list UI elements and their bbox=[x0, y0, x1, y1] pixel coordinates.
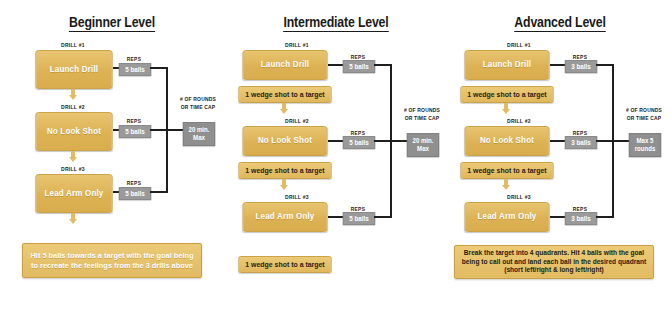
drill-label-i1: DRILL #1 bbox=[266, 42, 329, 48]
reps-chip-b2: 5 balls bbox=[119, 125, 151, 138]
drill-box-a1[interactable]: Launch Drill bbox=[465, 50, 550, 80]
drill-box-b3[interactable]: Lead Arm Only bbox=[35, 174, 112, 213]
cap-chip-beginner: 20 min. Max bbox=[183, 122, 215, 146]
column-title-beginner: Beginner Level bbox=[13, 14, 210, 32]
connector-i1-left bbox=[328, 64, 344, 66]
connector-i3-left bbox=[328, 216, 344, 218]
column-beginner: Beginner Level DRILL #1 Launch Drill DRI… bbox=[0, 0, 224, 309]
column-title-text: Advanced Level bbox=[514, 14, 605, 32]
wedge-box-i1[interactable]: 1 wedge shot to a target bbox=[238, 86, 331, 103]
reps-chip-a3: 3 balls bbox=[565, 212, 597, 225]
arrow-down-i2 bbox=[279, 179, 288, 190]
drill-label-a2: DRILL #2 bbox=[488, 118, 551, 124]
reps-label-b2: REPS bbox=[120, 118, 149, 124]
reps-chip-i1: 5 balls bbox=[343, 60, 375, 73]
cap-chip-intermediate: 20 min. Max bbox=[407, 133, 439, 157]
column-title-text: Intermediate Level bbox=[283, 14, 388, 32]
drill-label-b2: DRILL #2 bbox=[42, 104, 105, 110]
drill-box-b1[interactable]: Launch Drill bbox=[35, 50, 112, 89]
reps-chip-i3: 5 balls bbox=[343, 212, 375, 225]
reps-chip-b1: 5 balls bbox=[119, 63, 151, 76]
wedge-box-a1[interactable]: 1 wedge shot to a target bbox=[460, 86, 553, 103]
arrow-down-a2 bbox=[501, 179, 510, 190]
wedge-box-a2[interactable]: 1 wedge shot to a target bbox=[460, 162, 553, 179]
drill-label-i3: DRILL #3 bbox=[266, 194, 329, 200]
connector-a2-left bbox=[550, 140, 566, 142]
connector-a3-left bbox=[550, 216, 566, 218]
arrow-down-i1 bbox=[279, 103, 288, 114]
drill-label-a3: DRILL #3 bbox=[488, 194, 551, 200]
column-title-intermediate: Intermediate Level bbox=[237, 14, 434, 32]
drill-label-i2: DRILL #2 bbox=[266, 118, 329, 124]
wedge-box-i3[interactable]: 1 wedge shot to a target bbox=[238, 256, 331, 273]
cap-label-beginner: # OF ROUNDS OR TIME CAP bbox=[177, 96, 219, 112]
connector-i2-left bbox=[328, 140, 344, 142]
arrow-down-b1 bbox=[68, 89, 77, 100]
column-title-text: Beginner Level bbox=[69, 14, 155, 32]
drill-box-i3[interactable]: Lead Arm Only bbox=[243, 202, 328, 232]
summary-box-beginner: Hit 5 balls towards a target with the go… bbox=[22, 243, 202, 278]
column-title-advanced: Advanced Level bbox=[461, 14, 658, 32]
drill-box-i1[interactable]: Launch Drill bbox=[243, 50, 328, 80]
drill-box-i2[interactable]: No Look Shot bbox=[243, 126, 328, 156]
column-intermediate: Intermediate Level DRILL #1 Launch Drill… bbox=[224, 0, 448, 309]
wedge-box-i2[interactable]: 1 wedge shot to a target bbox=[238, 162, 331, 179]
arrow-down-a1 bbox=[501, 103, 510, 114]
bracket-vertical-advanced bbox=[612, 64, 614, 218]
drill-label-a1: DRILL #1 bbox=[488, 42, 551, 48]
bracket-vertical-intermediate bbox=[390, 64, 392, 218]
reps-chip-a2: 3 balls bbox=[565, 136, 597, 149]
arrow-down-b3 bbox=[68, 213, 77, 224]
drill-label-b3: DRILL #3 bbox=[42, 166, 105, 172]
cap-label-intermediate: # OF ROUNDS OR TIME CAP bbox=[401, 107, 443, 123]
cap-label-advanced: # OF ROUNDS OR TIME CAP bbox=[622, 107, 666, 123]
arrow-down-b2 bbox=[68, 151, 77, 162]
column-advanced: Advanced Level DRILL #1 Launch Drill 1 w… bbox=[448, 0, 672, 309]
drill-box-a3[interactable]: Lead Arm Only bbox=[465, 202, 550, 232]
drill-box-a2[interactable]: No Look Shot bbox=[465, 126, 550, 156]
cap-chip-advanced: Max 5 rounds bbox=[629, 133, 661, 157]
reps-label-b3: REPS bbox=[120, 180, 149, 186]
reps-chip-a1: 3 balls bbox=[565, 60, 597, 73]
diagram-canvas: Beginner Level DRILL #1 Launch Drill DRI… bbox=[0, 0, 672, 309]
summary-box-advanced: Break the target into 4 quadrants. Hit 4… bbox=[454, 245, 654, 279]
reps-chip-i2: 5 balls bbox=[343, 136, 375, 149]
drill-box-b2[interactable]: No Look Shot bbox=[35, 112, 112, 151]
reps-chip-b3: 5 balls bbox=[119, 187, 151, 200]
connector-a1-left bbox=[550, 64, 566, 66]
drill-label-b1: DRILL #1 bbox=[42, 42, 105, 48]
reps-label-b1: REPS bbox=[120, 56, 149, 62]
bracket-vertical-beginner bbox=[166, 67, 168, 193]
